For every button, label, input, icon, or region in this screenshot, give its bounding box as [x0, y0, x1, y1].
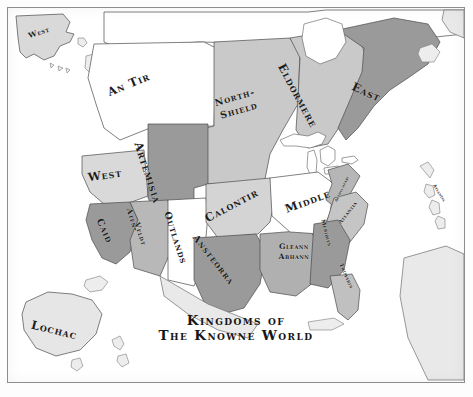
new-zealand	[112, 336, 129, 367]
kingdom-label-gleann-line1[interactable]: Gleann	[279, 242, 309, 251]
aleutian-islands	[50, 63, 70, 73]
region-trimaris[interactable]	[330, 274, 360, 320]
new-guinea	[84, 276, 108, 292]
kingdom-label-gleann-line2[interactable]: Abhann	[278, 252, 310, 261]
tasmania	[71, 358, 83, 371]
region-west-alaska[interactable]	[16, 14, 74, 60]
map-canvas: West An Tir North- Shield Eldormere East…	[8, 8, 464, 382]
cuba	[308, 318, 344, 330]
lake-ontario	[342, 156, 358, 164]
haida-gwaii	[78, 38, 87, 47]
knowne-world-map: West An Tir North- Shield Eldormere East…	[0, 0, 473, 397]
map-frame: West An Tir North- Shield Eldormere East…	[7, 7, 465, 383]
lake-huron	[320, 146, 335, 166]
south-america	[400, 246, 464, 380]
